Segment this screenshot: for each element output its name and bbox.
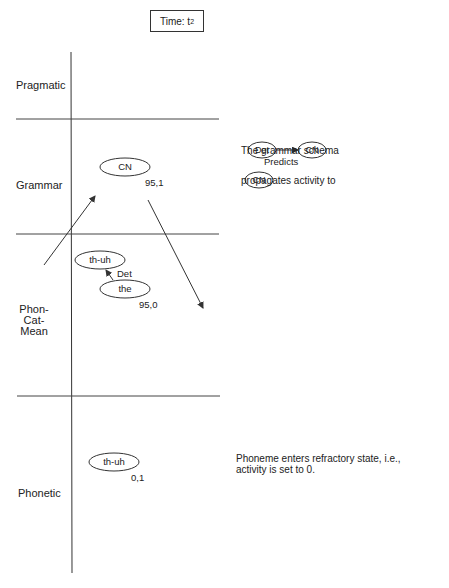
det-link-label: Det [117,269,132,279]
node-cn-value: 95,1 [145,178,164,188]
node-phonetic-th-uh-label: th-uh [94,457,134,467]
level-label-phon-cat-mean: Phon- Cat- Mean [16,304,52,337]
node-the-label: the [105,284,145,294]
level-label-pragmatic: Pragmatic [16,80,66,91]
level-label-grammar: Grammar [16,180,62,191]
phonetic-note: Phoneme enters refractory state, i.e., a… [236,453,401,475]
schema-cn-label: CN [298,146,326,155]
time-subscript: 2 [190,18,194,25]
diagram-lines [0,0,449,588]
phonetic-note-line2: activity is set to 0. [236,464,401,475]
level-label-mean: Mean [16,326,52,337]
node-the-value: 95,0 [139,300,158,310]
vertical-axis [71,52,72,573]
time-title-label: Time: t [160,16,190,27]
schema-predicts-label: Predicts [264,157,298,167]
schema-det-text: Det [248,146,276,155]
node-phonetic-th-uh-value: 0,1 [131,473,144,483]
node-th-uh-label: th-uh [80,255,120,265]
arrow-down-to-phon [148,200,203,308]
time-title-box: Time: t2 [150,10,204,32]
node-cn-label: CN [105,162,145,172]
phonetic-note-line1: Phoneme enters refractory state, i.e., [236,453,401,464]
det-link-arrow [106,270,113,280]
target-cn-label: CN [245,176,273,185]
level-label-phonetic: Phonetic [18,488,61,499]
